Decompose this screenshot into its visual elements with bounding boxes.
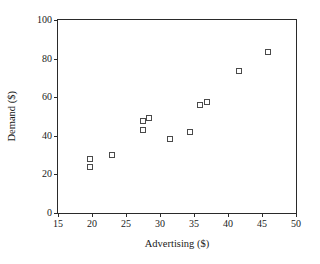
plot-area: 0204060801001520253035404550	[57, 19, 297, 214]
y-axis-title-text: Demand ($)	[7, 91, 18, 141]
x-axis-tick-label: 30	[155, 219, 165, 229]
x-axis-tick	[58, 213, 59, 217]
x-axis-tick	[92, 213, 93, 217]
x-axis-tick-label: 25	[121, 219, 131, 229]
data-point	[167, 136, 173, 142]
x-axis-tick	[126, 213, 127, 217]
x-axis-tick-label: 35	[189, 219, 199, 229]
data-point	[265, 49, 271, 55]
data-point	[109, 152, 115, 158]
x-axis-tick	[228, 213, 229, 217]
data-point	[197, 102, 203, 108]
x-axis-tick	[296, 213, 297, 217]
data-point	[204, 99, 210, 105]
y-axis-tick	[54, 174, 58, 175]
y-axis-tick-label: 60	[42, 92, 52, 102]
data-point	[140, 127, 146, 133]
y-axis-tick	[54, 136, 58, 137]
data-point	[146, 115, 152, 121]
scatter-plot-figure: 0204060801001520253035404550 Demand ($) …	[0, 0, 320, 264]
y-axis-tick-label: 80	[42, 54, 52, 64]
x-axis-tick	[160, 213, 161, 217]
y-axis-title: Demand ($)	[5, 19, 19, 214]
x-axis-tick	[262, 213, 263, 217]
x-axis-tick-label: 40	[223, 219, 233, 229]
data-point	[87, 164, 93, 170]
x-axis-title: Advertising ($)	[57, 239, 297, 250]
data-point	[140, 118, 146, 124]
y-axis-tick	[54, 97, 58, 98]
x-axis-tick-label: 15	[53, 219, 63, 229]
y-axis-tick-label: 40	[42, 131, 52, 141]
y-axis-tick	[54, 20, 58, 21]
y-axis-tick	[54, 59, 58, 60]
data-point	[87, 156, 93, 162]
data-point	[187, 129, 193, 135]
x-axis-tick	[194, 213, 195, 217]
x-axis-tick-label: 50	[291, 219, 301, 229]
data-point	[236, 68, 242, 74]
y-axis-tick-label: 100	[37, 15, 52, 25]
y-axis-tick-label: 0	[47, 208, 52, 218]
x-axis-tick-label: 20	[87, 219, 97, 229]
y-axis-tick-label: 20	[42, 169, 52, 179]
x-axis-tick-label: 45	[257, 219, 267, 229]
